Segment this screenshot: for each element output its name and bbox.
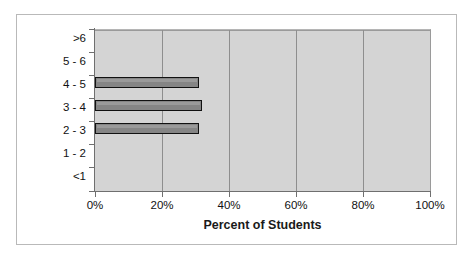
x-axis-title: Percent of Students bbox=[95, 218, 430, 232]
bar-highlight bbox=[97, 79, 197, 82]
y-tick-label: >6 bbox=[73, 31, 86, 45]
x-tick-mark bbox=[430, 192, 431, 197]
y-tick-label: <1 bbox=[73, 169, 86, 183]
x-tick-label: 0% bbox=[65, 199, 125, 211]
y-tick-label: 4 - 5 bbox=[63, 77, 86, 91]
chart-figure: Time to Perform (hrs) >6 5 - 6 4 - 5 3 -… bbox=[0, 0, 473, 265]
plot-top-edge bbox=[95, 30, 430, 31]
gridline-20 bbox=[162, 30, 163, 192]
y-tick-label: 5 - 6 bbox=[63, 54, 86, 68]
y-tick-mark bbox=[89, 75, 94, 76]
x-tick-label: 60% bbox=[266, 199, 326, 211]
y-tick-label: 1 - 2 bbox=[63, 146, 86, 160]
bar-highlight bbox=[97, 102, 200, 105]
bar-3-4 bbox=[95, 100, 202, 111]
y-tick-mark bbox=[89, 52, 94, 53]
y-tick-mark bbox=[89, 98, 94, 99]
x-axis-line bbox=[94, 191, 431, 192]
x-tick-label: 40% bbox=[199, 199, 259, 211]
y-tick-mark bbox=[89, 29, 94, 30]
x-tick-mark bbox=[229, 192, 230, 197]
x-tick-mark bbox=[363, 192, 364, 197]
bar-highlight bbox=[97, 125, 197, 128]
y-tick-mark bbox=[89, 144, 94, 145]
gridline-60 bbox=[296, 30, 297, 192]
y-tick-mark bbox=[89, 121, 94, 122]
y-tick-label: 2 - 3 bbox=[63, 123, 86, 137]
bar-4-5 bbox=[95, 77, 199, 88]
y-axis-tick-labels: >6 5 - 6 4 - 5 3 - 4 2 - 3 1 - 2 <1 bbox=[40, 29, 90, 191]
plot-area bbox=[95, 29, 431, 192]
x-tick-label: 100% bbox=[400, 199, 460, 211]
x-tick-mark bbox=[296, 192, 297, 197]
bar-2-3 bbox=[95, 123, 199, 134]
gridline-80 bbox=[363, 30, 364, 192]
y-tick-mark bbox=[89, 167, 94, 168]
x-tick-mark bbox=[95, 192, 96, 197]
x-tick-label: 20% bbox=[132, 199, 192, 211]
y-tick-label: 3 - 4 bbox=[63, 100, 86, 114]
gridline-40 bbox=[229, 30, 230, 192]
x-tick-mark bbox=[162, 192, 163, 197]
x-tick-label: 80% bbox=[333, 199, 393, 211]
